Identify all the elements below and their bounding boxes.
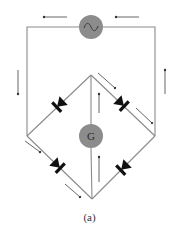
bridge-rectifier-diagram: G (0, 0, 179, 235)
galvanometer: G (79, 124, 103, 148)
ac-source (79, 15, 103, 39)
arrow-down-right-icon (98, 73, 115, 88)
figure-caption: (a) (0, 211, 179, 223)
galvanometer-label: G (87, 130, 95, 142)
